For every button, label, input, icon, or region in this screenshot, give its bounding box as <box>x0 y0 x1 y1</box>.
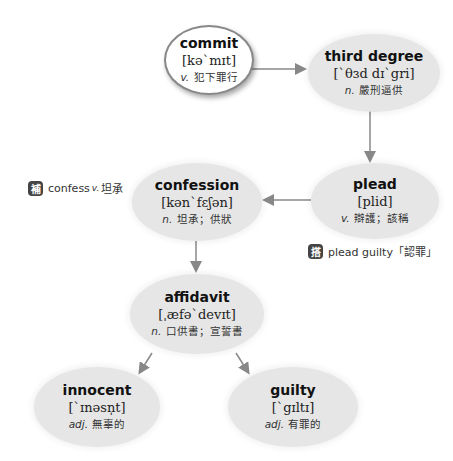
definition-label: n. 口供書；宣誓書 <box>151 324 242 339</box>
definition-label: v. 辯護；該稱 <box>341 211 409 226</box>
collocation-badge-icon: 搭 <box>308 244 323 259</box>
node-confession: confession [kən`fɛʃən] n. 坦承；供狀 <box>132 163 262 241</box>
supplement-note: 補 confess v. 坦承 <box>28 180 123 196</box>
definition-label: v. 犯下罪行 <box>180 70 237 85</box>
word-label: innocent <box>63 382 132 399</box>
node-third-degree: third degree [`θɜd dɪ`gri] n. 嚴刑逼供 <box>308 34 440 112</box>
word-label: commit <box>180 35 239 52</box>
node-plead: plead [plid] v. 辯護；該稱 <box>311 163 439 239</box>
ipa-label: [kən`fɛʃən] <box>161 194 233 212</box>
word-label: confession <box>155 177 240 194</box>
supplement-badge-icon: 補 <box>28 181 43 196</box>
ipa-label: [`ɪnəsn̩t] <box>68 399 125 417</box>
ipa-label: [`θɜd dɪ`gri] <box>333 65 414 83</box>
definition-label: n. 坦承；供狀 <box>162 212 231 227</box>
word-label: plead <box>353 176 397 193</box>
ipa-label: [kə`mɪt] <box>182 52 236 70</box>
ipa-label: [`gɪltɪ] <box>272 399 315 417</box>
node-innocent: innocent [`ɪnəsn̩t] adj. 無辜的 <box>34 367 160 447</box>
word-label: third degree <box>325 48 424 65</box>
definition-label: adj. 無辜的 <box>69 417 126 432</box>
node-commit: commit [kə`mɪt] v. 犯下罪行 <box>164 25 254 95</box>
ipa-label: [ˌæfə`devɪt] <box>158 306 236 324</box>
node-affidavit: affidavit [ˌæfə`devɪt] n. 口供書；宣誓書 <box>130 274 264 354</box>
definition-label: adj. 有罪的 <box>265 417 322 432</box>
collocation-note: 搭 plead guilty「認罪」 <box>308 243 437 259</box>
node-guilty: guilty [`gɪltɪ] adj. 有罪的 <box>228 367 358 447</box>
word-label: guilty <box>270 382 315 399</box>
definition-label: n. 嚴刑逼供 <box>345 83 403 98</box>
ipa-label: [plid] <box>357 193 392 211</box>
word-label: affidavit <box>164 289 229 306</box>
